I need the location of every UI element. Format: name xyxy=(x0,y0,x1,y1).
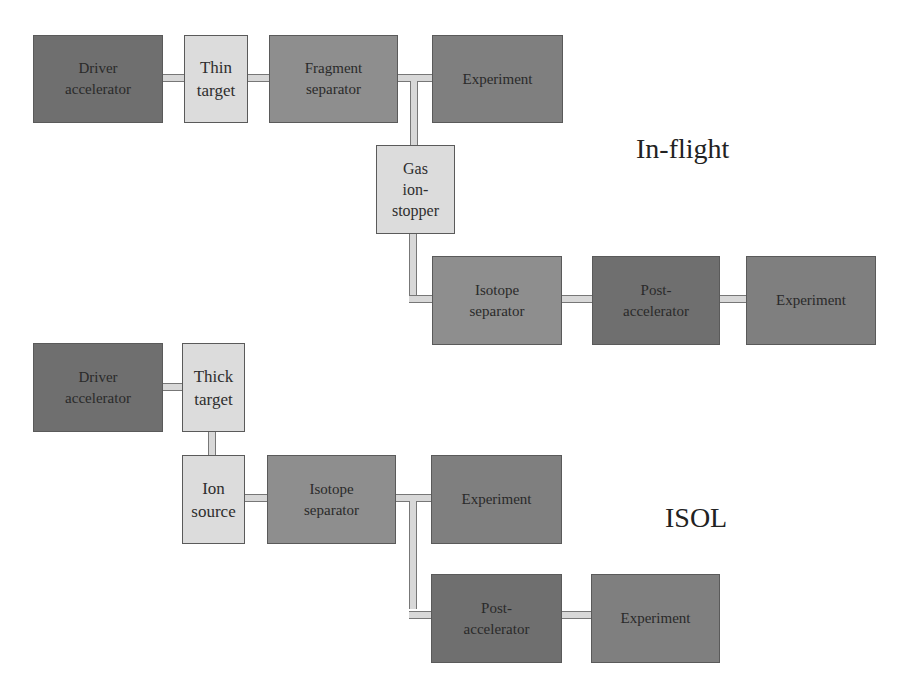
box-label: Isotope xyxy=(309,479,353,500)
fragment-separator-box: Fragment separator xyxy=(269,35,398,123)
box-label: Experiment xyxy=(776,290,846,311)
thin-target-box: Thin target xyxy=(184,35,248,123)
beam-pipe xyxy=(409,232,417,302)
beam-pipe xyxy=(561,611,592,619)
box-label: accelerator xyxy=(65,79,131,100)
box-label: Experiment xyxy=(463,69,533,90)
beam-pipe xyxy=(561,295,593,303)
driver-accelerator-box: Driver accelerator xyxy=(33,343,163,432)
experiment-box: Experiment xyxy=(431,455,562,544)
box-label: target xyxy=(194,388,232,411)
experiment-box: Experiment xyxy=(432,35,563,123)
beam-pipe xyxy=(409,295,433,303)
box-label: Gas xyxy=(403,158,428,179)
post-accelerator-box: Post- accelerator xyxy=(592,256,720,345)
box-label: separator xyxy=(306,79,361,100)
box-label: separator xyxy=(470,301,525,322)
beam-pipe xyxy=(208,431,216,456)
box-label: Fragment xyxy=(305,58,363,79)
isotope-separator-box: Isotope separator xyxy=(267,455,396,544)
experiment-box: Experiment xyxy=(591,574,720,663)
box-label: Driver xyxy=(78,58,117,79)
post-accelerator-box: Post- accelerator xyxy=(431,574,562,663)
isotope-separator-box: Isotope separator xyxy=(432,256,562,345)
box-label: stopper xyxy=(392,200,439,221)
in-flight-label: In-flight xyxy=(636,133,729,165)
box-label: accelerator xyxy=(623,301,689,322)
box-label: ion- xyxy=(403,179,429,200)
thick-target-box: Thick target xyxy=(182,343,245,432)
ion-source-box: Ion source xyxy=(182,455,245,544)
beam-pipe xyxy=(244,494,268,502)
isol-label: ISOL xyxy=(665,502,727,534)
beam-pipe xyxy=(719,295,747,303)
box-label: accelerator xyxy=(464,619,530,640)
box-label: Ion xyxy=(202,477,225,500)
beam-pipe xyxy=(247,74,270,82)
driver-accelerator-box: Driver accelerator xyxy=(33,35,163,123)
beam-pipe xyxy=(410,81,418,146)
box-label: Thick xyxy=(194,365,234,388)
box-label: Experiment xyxy=(462,489,532,510)
experiment-box: Experiment xyxy=(746,256,876,345)
box-label: Thin xyxy=(200,56,232,79)
box-label: Post- xyxy=(641,280,672,301)
beam-pipe xyxy=(162,74,185,82)
box-label: Experiment xyxy=(621,608,691,629)
box-label: source xyxy=(191,500,235,523)
gas-ion-stopper-box: Gas ion- stopper xyxy=(376,145,455,234)
beam-pipe xyxy=(162,383,183,391)
beam-pipe xyxy=(409,501,417,609)
box-label: Isotope xyxy=(475,280,519,301)
box-label: Driver xyxy=(78,367,117,388)
box-label: separator xyxy=(304,500,359,521)
box-label: target xyxy=(197,79,235,102)
box-label: Post- xyxy=(481,598,512,619)
beam-pipe xyxy=(409,611,432,619)
box-label: accelerator xyxy=(65,388,131,409)
